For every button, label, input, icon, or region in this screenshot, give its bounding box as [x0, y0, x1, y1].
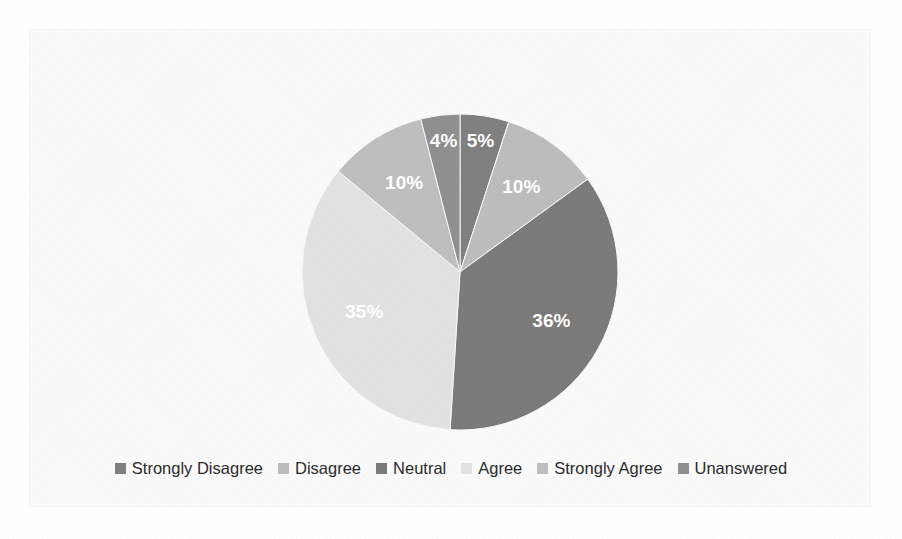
legend-swatch-icon: [537, 463, 548, 474]
pie-slice-label: 10%: [502, 176, 540, 197]
pie-svg: 5%10%36%35%10%4%: [300, 112, 620, 432]
pie-slice-group: [302, 114, 618, 430]
legend-item-label: Agree: [478, 460, 522, 477]
legend-item[interactable]: Disagree: [278, 460, 361, 477]
legend-item-label: Strongly Agree: [554, 460, 662, 477]
pie-graphic: 5%10%36%35%10%4%: [300, 112, 620, 432]
pie-chart-figure: 5%10%36%35%10%4% Strongly DisagreeDisagr…: [0, 0, 902, 539]
legend-item[interactable]: Unanswered: [678, 460, 788, 477]
chart-legend: Strongly DisagreeDisagreeNeutralAgreeStr…: [0, 460, 902, 477]
pie-slice-label: 4%: [430, 130, 458, 151]
legend-swatch-icon: [278, 463, 289, 474]
legend-swatch-icon: [461, 463, 472, 474]
pie-slice-label: 5%: [467, 130, 495, 151]
pie-slice-label: 10%: [385, 172, 423, 193]
legend-item-label: Strongly Disagree: [132, 460, 263, 477]
legend-item-label: Unanswered: [695, 460, 788, 477]
legend-swatch-icon: [376, 463, 387, 474]
legend-item[interactable]: Strongly Agree: [537, 460, 662, 477]
legend-swatch-icon: [678, 463, 689, 474]
legend-swatch-icon: [115, 463, 126, 474]
legend-item-label: Disagree: [295, 460, 361, 477]
legend-item[interactable]: Strongly Disagree: [115, 460, 263, 477]
pie-slice-label: 35%: [345, 301, 383, 322]
legend-item[interactable]: Neutral: [376, 460, 446, 477]
legend-item-label: Neutral: [393, 460, 446, 477]
pie-slice-label: 36%: [532, 310, 570, 331]
legend-item[interactable]: Agree: [461, 460, 522, 477]
